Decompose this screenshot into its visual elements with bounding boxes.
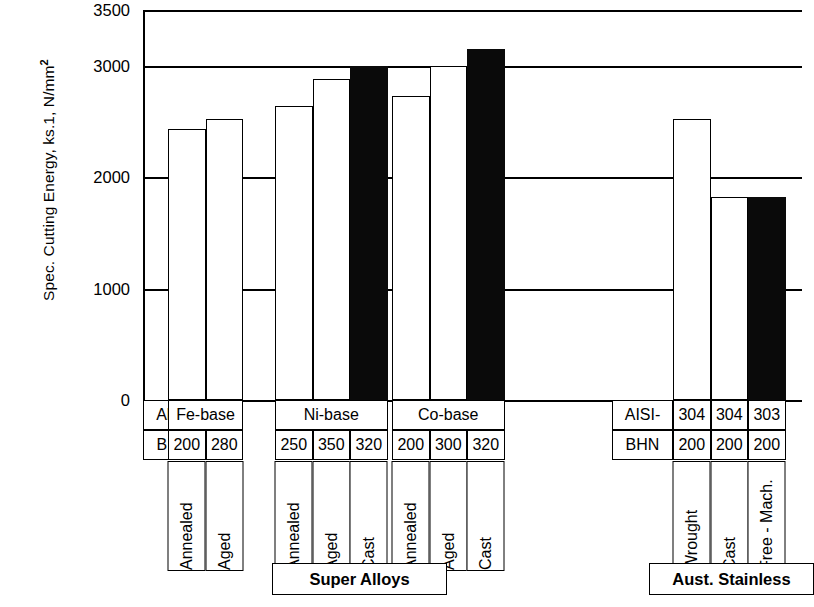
table-bhn-cell: 200 <box>748 430 786 460</box>
table-bhn-cell: 280 <box>206 430 244 460</box>
y-tick-label-2000: 2000 <box>60 169 130 186</box>
y-tick-label-3000: 3000 <box>60 57 130 74</box>
table-bhn-cell: 320 <box>467 430 505 460</box>
table-condition-cell: Cast <box>467 461 505 571</box>
table-bhn-cell: 200 <box>392 430 430 460</box>
table-grade-cell: 304 <box>673 400 711 430</box>
table-condition-cell: Aged <box>206 461 244 571</box>
table-condition-cell: Annealed <box>275 461 313 571</box>
table-condition-cell: Annealed <box>168 461 206 571</box>
table-group-name-co-base: Co-base <box>392 400 505 430</box>
table-bhn-cell: 300 <box>430 430 468 460</box>
table-bhn-cell: 250 <box>275 430 313 460</box>
bar <box>350 66 388 400</box>
y-tick-label-group: 35003000200010000 <box>54 0 130 410</box>
table-grade-cell: 304 <box>711 400 749 430</box>
table-bhn-cell: 200 <box>711 430 749 460</box>
table-condition-cell: Cast <box>711 461 749 571</box>
table-condition-cell: Wrought <box>673 461 711 571</box>
table-header-aisi: AISI- <box>612 400 673 430</box>
table-bhn-cell: 320 <box>350 430 388 460</box>
bar <box>392 96 430 400</box>
bar <box>748 197 786 400</box>
table-bhn-cell: 200 <box>673 430 711 460</box>
bar <box>430 66 468 400</box>
table-grade-cell: 303 <box>748 400 786 430</box>
group-banner-super-alloys: Super Alloys <box>272 563 447 595</box>
bar <box>673 119 711 400</box>
bar <box>467 49 505 400</box>
bar <box>275 106 313 400</box>
table-condition-cell: Aged <box>313 461 351 571</box>
bar <box>206 119 244 400</box>
y-tick-label-1000: 1000 <box>60 280 130 297</box>
table-bhn-cell: 350 <box>313 430 351 460</box>
y-tick-label-3500: 3500 <box>60 2 130 19</box>
group-banner-aust-stainless: Aust. Stainless <box>649 563 814 595</box>
table-header-bhn-stainless: BHN <box>612 430 673 460</box>
bar <box>313 79 351 400</box>
y-axis-title-superscript: 2 <box>38 59 50 65</box>
plot-area <box>143 10 802 400</box>
table-group-name-ni-base: Ni-base <box>275 400 388 430</box>
table-condition-cell: Annealed <box>392 461 430 571</box>
table-condition-cell: Aged <box>430 461 468 571</box>
y-tick-label-0: 0 <box>60 392 130 409</box>
table-condition-cell: Cast <box>350 461 388 571</box>
table-group-name-fe-base: Fe-base <box>168 400 243 430</box>
table-condition-cell: Free - Mach. <box>748 461 786 571</box>
table-bhn-cell: 200 <box>168 430 206 460</box>
bar <box>711 197 749 400</box>
bar <box>168 129 206 400</box>
